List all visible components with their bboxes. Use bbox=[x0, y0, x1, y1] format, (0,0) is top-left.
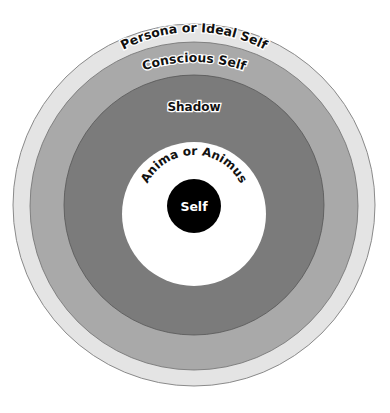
shadow-label: Shadow bbox=[167, 100, 220, 114]
self-layers-diagram: Persona or Ideal Self Conscious Self Sha… bbox=[0, 0, 390, 413]
self-label: Self bbox=[180, 199, 208, 214]
